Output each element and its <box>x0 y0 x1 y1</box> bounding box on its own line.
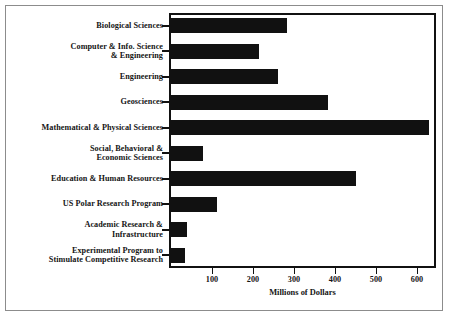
category-label-line: US Polar Research Program <box>8 199 163 209</box>
category-label-line: Stimulate Competitive Research <box>8 255 163 265</box>
x-axis-tick-label: 500 <box>356 275 396 284</box>
category-label-line: Education & Human Resources <box>8 174 163 184</box>
x-axis-tick-label: 400 <box>315 275 355 284</box>
category-label-line: Computer & Info. Science <box>8 42 163 52</box>
figure: Biological SciencesComputer & Info. Scie… <box>0 0 449 317</box>
category-label-line: Biological Sciences <box>8 21 163 31</box>
category-label-line: Academic Research & <box>8 220 163 230</box>
bar <box>171 18 287 33</box>
x-axis-tick-label: 200 <box>233 275 273 284</box>
bar <box>171 248 185 263</box>
category-label: Computer & Info. Science& Engineering <box>8 42 163 61</box>
category-label-line: Social, Behavioral & <box>8 144 163 154</box>
bar <box>171 197 217 212</box>
category-label-line: Infrastructure <box>8 230 163 240</box>
bar <box>171 69 278 84</box>
category-tick <box>162 178 171 180</box>
bar <box>171 120 429 135</box>
bar <box>171 171 356 186</box>
category-tick <box>162 76 171 78</box>
category-tick <box>162 203 171 205</box>
x-axis-tick <box>212 268 213 274</box>
x-axis-tick <box>417 268 418 274</box>
category-label: Engineering <box>8 72 163 82</box>
x-axis-tick <box>294 268 295 274</box>
x-axis-tick-label: 600 <box>397 275 437 284</box>
category-label: US Polar Research Program <box>8 199 163 209</box>
x-axis-tick <box>253 268 254 274</box>
bar <box>171 146 203 161</box>
x-axis-tick <box>376 268 377 274</box>
category-label: Social, Behavioral &Economic Sciences <box>8 144 163 163</box>
category-axis-labels: Biological SciencesComputer & Info. Scie… <box>8 13 163 268</box>
category-tick <box>162 229 171 231</box>
category-label: Mathematical & Physical Sciences <box>8 123 163 133</box>
category-label: Experimental Program toStimulate Competi… <box>8 246 163 265</box>
bar <box>171 95 328 110</box>
category-tick <box>162 25 171 27</box>
category-tick <box>162 254 171 256</box>
category-label: Biological Sciences <box>8 21 163 31</box>
category-tick <box>162 101 171 103</box>
x-axis-tick-label: 300 <box>274 275 314 284</box>
x-axis-tick-label: 100 <box>192 275 232 284</box>
bar <box>171 44 259 59</box>
x-axis-title: Millions of Dollars <box>169 288 436 297</box>
category-label: Education & Human Resources <box>8 174 163 184</box>
category-label: Academic Research &Infrastructure <box>8 220 163 239</box>
category-label-line: Experimental Program to <box>8 246 163 256</box>
category-label-line: Economic Sciences <box>8 153 163 163</box>
category-label-line: & Engineering <box>8 51 163 61</box>
category-tick <box>162 50 171 52</box>
category-label-line: Engineering <box>8 72 163 82</box>
category-label: Geosciences <box>8 97 163 107</box>
category-tick <box>162 127 171 129</box>
category-tick <box>162 152 171 154</box>
x-axis-tick <box>335 268 336 274</box>
category-label-line: Geosciences <box>8 97 163 107</box>
category-label-line: Mathematical & Physical Sciences <box>8 123 163 133</box>
bar <box>171 222 187 237</box>
